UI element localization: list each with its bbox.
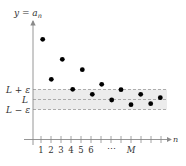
band-label-lower: L − ε xyxy=(5,105,30,115)
point-a4 xyxy=(70,87,75,92)
point-a6 xyxy=(90,92,95,97)
point-a12 xyxy=(148,101,153,106)
point-a11 xyxy=(138,92,143,97)
point-a9 xyxy=(119,87,124,92)
band-label-upper: L + ε xyxy=(5,85,30,95)
point-a7 xyxy=(99,82,104,87)
svg-text:1: 1 xyxy=(38,145,43,155)
point-a5 xyxy=(80,67,85,72)
ellipsis-label: ⋯ xyxy=(107,144,116,154)
convergence-diagram: y = an n L + ε L L − ε 1 2 3 4 5 6 ⋯ M xyxy=(0,0,186,166)
y-axis-label: y = an xyxy=(13,8,42,20)
x-tick-labels: 1 2 3 4 5 6 ⋯ M xyxy=(38,144,135,155)
svg-text:2: 2 xyxy=(48,145,53,155)
m-label: M xyxy=(126,145,136,155)
x-axis-label: n xyxy=(173,135,178,144)
point-a10 xyxy=(129,102,134,107)
point-a8 xyxy=(109,98,114,103)
point-a13 xyxy=(158,95,163,100)
svg-text:4: 4 xyxy=(68,145,73,155)
point-a1 xyxy=(40,37,45,42)
point-a2 xyxy=(49,77,54,82)
svg-text:6: 6 xyxy=(88,145,93,155)
svg-text:3: 3 xyxy=(58,145,63,155)
svg-text:5: 5 xyxy=(78,145,83,155)
point-a3 xyxy=(60,57,65,62)
band-label-center: L xyxy=(21,95,28,105)
